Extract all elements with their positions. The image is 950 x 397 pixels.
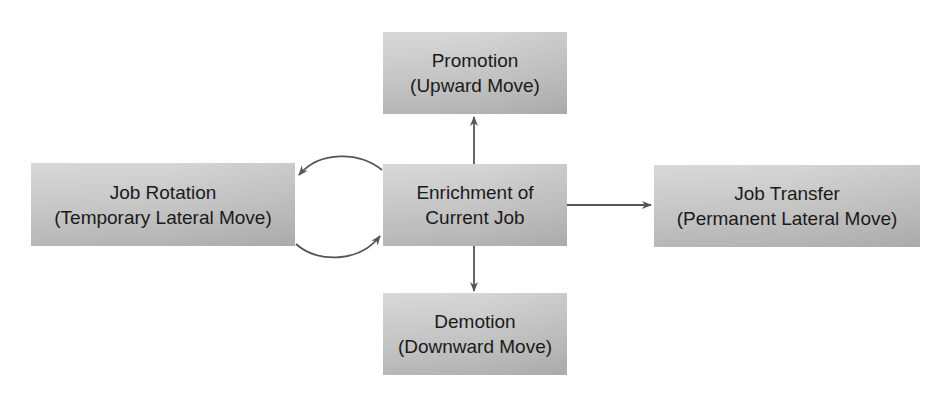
job-transfer-title: Job Transfer bbox=[734, 181, 840, 206]
enrichment-box: Enrichment of Current Job bbox=[383, 164, 567, 246]
promotion-title: Promotion bbox=[432, 48, 519, 73]
demotion-box: Demotion (Downward Move) bbox=[383, 293, 567, 375]
job-transfer-box: Job Transfer (Permanent Lateral Move) bbox=[654, 165, 920, 247]
job-rotation-subtitle: (Temporary Lateral Move) bbox=[54, 205, 272, 230]
job-rotation-title: Job Rotation bbox=[110, 180, 217, 205]
curved-arrow-to-rotation bbox=[299, 156, 382, 175]
job-transfer-subtitle: (Permanent Lateral Move) bbox=[677, 206, 898, 231]
curved-arrow-to-enrichment bbox=[296, 236, 380, 257]
job-rotation-box: Job Rotation (Temporary Lateral Move) bbox=[31, 163, 295, 246]
enrichment-title: Enrichment of bbox=[416, 180, 533, 205]
promotion-subtitle: (Upward Move) bbox=[410, 73, 540, 98]
demotion-title: Demotion bbox=[434, 309, 515, 334]
promotion-box: Promotion (Upward Move) bbox=[383, 32, 567, 114]
demotion-subtitle: (Downward Move) bbox=[398, 334, 552, 359]
enrichment-subtitle: Current Job bbox=[425, 205, 524, 230]
